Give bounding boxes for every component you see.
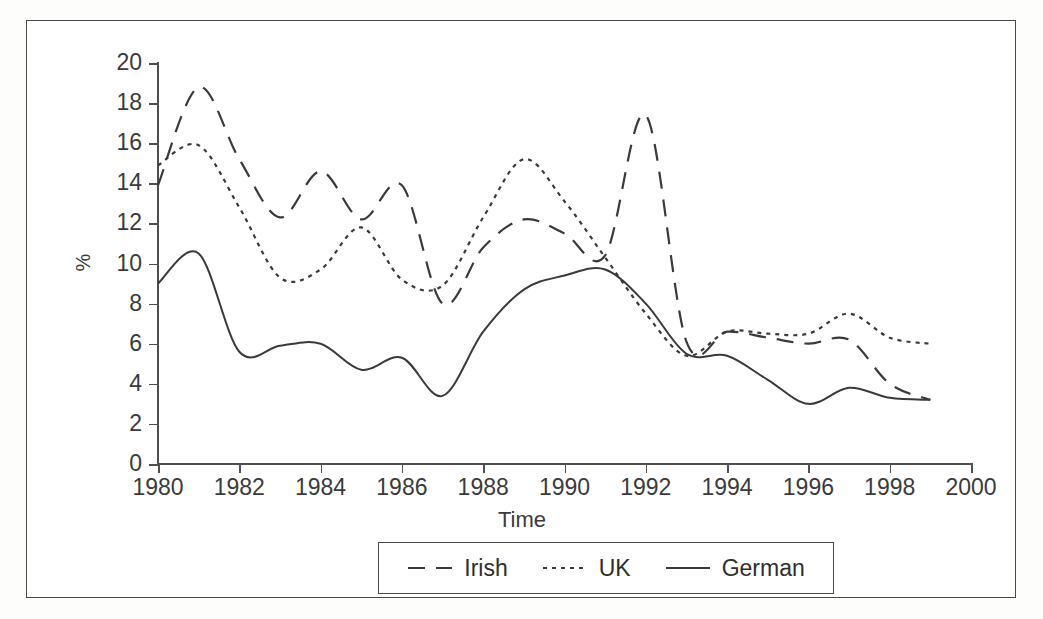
screenshot-canvas: 02468101214161820 1980198219841986198819… (0, 0, 1043, 619)
series-line-german (158, 251, 930, 404)
x-axis-title: Time (27, 507, 1017, 533)
x-tick-label: 1992 (606, 476, 686, 499)
y-tick-mark (149, 264, 158, 266)
y-tick-mark (149, 464, 158, 466)
legend-swatch-solid-icon (665, 561, 711, 575)
x-tick-label: 1990 (525, 476, 605, 499)
y-tick-label: 20 (82, 51, 142, 74)
x-tick-mark (158, 464, 160, 473)
x-tick-mark (565, 464, 567, 473)
y-tick-label: 14 (82, 171, 142, 194)
series-canvas (158, 63, 971, 464)
x-tick-label: 1986 (362, 476, 442, 499)
x-tick-mark (727, 464, 729, 473)
x-tick-mark (971, 464, 973, 473)
y-tick-mark (149, 223, 158, 225)
x-tick-label: 1982 (199, 476, 279, 499)
x-tick-mark (402, 464, 404, 473)
y-tick-label: 4 (82, 372, 142, 395)
chart-legend: IrishUKGerman (378, 542, 834, 594)
x-tick-label: 1980 (118, 476, 198, 499)
legend-entry-irish[interactable]: Irish (407, 557, 507, 580)
x-tick-label: 1998 (850, 476, 930, 499)
x-tick-mark (808, 464, 810, 473)
y-tick-mark (149, 143, 158, 145)
y-tick-mark (149, 103, 158, 105)
legend-entry-uk[interactable]: UK (542, 557, 631, 580)
x-tick-label: 1994 (687, 476, 767, 499)
y-tick-mark (149, 63, 158, 65)
legend-label: UK (599, 557, 631, 580)
y-tick-mark (149, 384, 158, 386)
x-tick-label: 1988 (443, 476, 523, 499)
x-tick-label: 1996 (768, 476, 848, 499)
y-tick-label: 0 (82, 452, 142, 475)
series-line-irish (158, 87, 930, 400)
x-tick-mark (890, 464, 892, 473)
x-tick-mark (239, 464, 241, 473)
x-tick-mark (321, 464, 323, 473)
y-tick-label: 6 (82, 332, 142, 355)
legend-label: German (722, 557, 805, 580)
y-tick-mark (149, 304, 158, 306)
legend-swatch-dotted-icon (542, 561, 588, 575)
figure-frame: 02468101214161820 1980198219841986198819… (26, 20, 1016, 598)
x-tick-label: 1984 (281, 476, 361, 499)
y-tick-label: 16 (82, 131, 142, 154)
series-line-uk (158, 144, 930, 356)
legend-swatch-long-dash-icon (407, 561, 453, 575)
x-tick-label: 2000 (931, 476, 1011, 499)
y-tick-label: 8 (82, 292, 142, 315)
plot-area (158, 63, 971, 464)
x-tick-mark (646, 464, 648, 473)
y-tick-mark (149, 183, 158, 185)
y-axis-title: % (72, 254, 95, 272)
y-tick-mark (149, 344, 158, 346)
y-tick-label: 12 (82, 211, 142, 234)
x-tick-mark (483, 464, 485, 473)
y-tick-label: 2 (82, 412, 142, 435)
y-tick-mark (149, 424, 158, 426)
legend-label: Irish (464, 557, 507, 580)
y-tick-label: 18 (82, 91, 142, 114)
legend-entry-german[interactable]: German (665, 557, 805, 580)
